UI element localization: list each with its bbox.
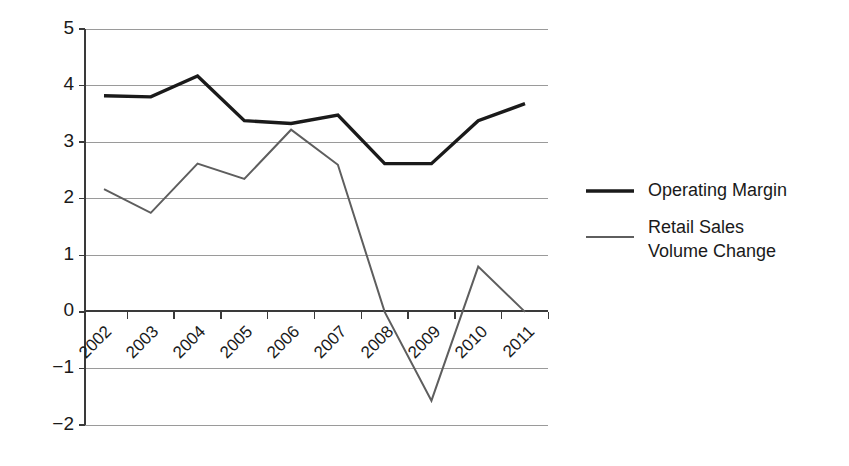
y-tick-label-4: 4 bbox=[63, 73, 74, 94]
y-tick-label-neg1: −1 bbox=[52, 356, 74, 377]
y-tick-label-2: 2 bbox=[63, 186, 74, 207]
y-tick-label-1: 1 bbox=[63, 243, 74, 264]
legend-label-operating-margin: Operating Margin bbox=[648, 180, 787, 200]
y-tick-label-5: 5 bbox=[63, 17, 74, 38]
legend-label-retail-sales-line2: Volume Change bbox=[648, 241, 776, 261]
chart-container: 5 4 3 2 1 0 −1 −2 2002 2003 2004 2005 20… bbox=[0, 0, 849, 466]
y-tick-label-neg2: −2 bbox=[52, 413, 74, 434]
line-chart: 5 4 3 2 1 0 −1 −2 2002 2003 2004 2005 20… bbox=[0, 0, 849, 466]
legend-label-retail-sales-line1: Retail Sales bbox=[648, 217, 744, 237]
y-tick-label-0: 0 bbox=[63, 299, 74, 320]
y-tick-label-3: 3 bbox=[63, 130, 74, 151]
